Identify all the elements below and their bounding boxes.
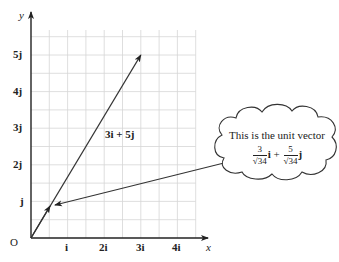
y-tick-label: 4j [13,86,22,97]
x-tick-label: 2i [99,242,108,253]
unit-vector-expression: 3 √34 i + 5 √34 j [218,145,336,166]
x-tick-label: 3i [136,242,145,253]
fraction-2: 5 √34 [284,145,298,166]
y-tick-label: 3j [13,122,22,133]
x-axis-name: x [206,242,211,253]
vector-label: 3i + 5j [105,129,135,140]
callout-content: This is the unit vector 3 √34 i + 5 √34 … [218,130,336,166]
y-tick-label: j [20,196,24,207]
origin-label: O [10,237,18,248]
y-tick-label: 2j [13,159,22,170]
x-tick-label: 4i [172,242,181,253]
x-tick-label: i [65,242,68,253]
y-axis-name: y [19,10,24,21]
callout-text: This is the unit vector [218,130,336,141]
y-tick-label: 5j [13,49,22,60]
fraction-1: 3 √34 [253,145,267,166]
unit-vector [31,206,50,238]
